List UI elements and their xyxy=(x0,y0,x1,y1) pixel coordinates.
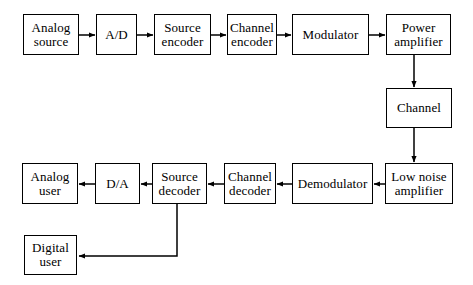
node-channel-encoder[interactable]: Channel encoder xyxy=(227,14,277,55)
node-channel-decoder[interactable]: Channel decoder xyxy=(224,163,276,204)
node-demodulator[interactable]: Demodulator xyxy=(292,163,373,204)
node-low-noise-amplifier-label: Low noise amplifier xyxy=(389,170,448,197)
node-da-converter[interactable]: D/A xyxy=(95,163,140,204)
node-modulator-label: Modulator xyxy=(301,28,361,42)
node-channel-decoder-label: Channel decoder xyxy=(226,170,274,197)
node-ad-converter[interactable]: A/D xyxy=(96,14,137,55)
node-digital-user[interactable]: Digital user xyxy=(24,235,77,275)
node-modulator[interactable]: Modulator xyxy=(292,14,369,55)
node-low-noise-amplifier[interactable]: Low noise amplifier xyxy=(385,163,453,204)
node-da-converter-label: D/A xyxy=(104,177,131,191)
connector-source-decoder-to-digital-user xyxy=(79,204,177,256)
node-channel[interactable]: Channel xyxy=(386,88,452,128)
node-analog-user[interactable]: Analog user xyxy=(22,163,78,204)
node-source-decoder-label: Source decoder xyxy=(157,170,203,197)
node-channel-label: Channel xyxy=(395,101,443,115)
node-source-decoder[interactable]: Source decoder xyxy=(152,163,207,204)
block-diagram: Analog source A/D Source encoder Channel… xyxy=(0,0,473,285)
node-source-encoder[interactable]: Source encoder xyxy=(154,14,211,55)
node-demodulator-label: Demodulator xyxy=(296,177,370,191)
node-analog-source[interactable]: Analog source xyxy=(23,14,79,55)
node-power-amplifier-label: Power amplifier xyxy=(392,21,445,48)
node-ad-converter-label: A/D xyxy=(103,28,130,42)
node-channel-encoder-label: Channel encoder xyxy=(228,21,276,48)
node-analog-user-label: Analog user xyxy=(29,170,72,197)
node-source-encoder-label: Source encoder xyxy=(160,21,206,48)
node-power-amplifier[interactable]: Power amplifier xyxy=(386,14,451,55)
node-analog-source-label: Analog source xyxy=(30,21,73,48)
node-digital-user-label: Digital user xyxy=(30,241,71,268)
